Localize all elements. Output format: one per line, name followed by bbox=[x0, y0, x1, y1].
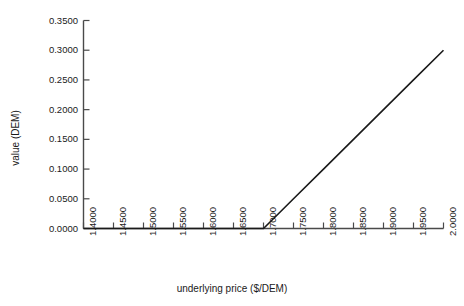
data-series-lines bbox=[84, 50, 444, 228]
x-axis-tick-label: 1.9000 bbox=[388, 206, 398, 235]
x-axis-tick-label: 1.7500 bbox=[298, 206, 308, 235]
axis-lines bbox=[84, 21, 444, 229]
y-axis-title: value (DEM) bbox=[10, 68, 21, 208]
y-axis-ticks bbox=[84, 21, 90, 229]
x-axis-tick-label: 2.0000 bbox=[448, 206, 458, 235]
y-axis-tick-label: 0.1500 bbox=[18, 135, 78, 145]
y-axis-tick-label: 0.0500 bbox=[18, 194, 78, 204]
x-axis-tick-label: 1.4000 bbox=[88, 206, 98, 235]
y-axis-tick-label: 0.3500 bbox=[18, 16, 78, 26]
x-axis-title: underlying price ($/DEM) bbox=[0, 283, 464, 294]
x-axis-tick-label: 1.6500 bbox=[238, 206, 248, 235]
x-axis-tick-label: 1.5500 bbox=[178, 206, 188, 235]
y-axis-tick-label: 0.0000 bbox=[18, 224, 78, 234]
x-axis-tick-label: 1.5000 bbox=[148, 206, 158, 235]
x-axis-tick-label: 1.4500 bbox=[118, 206, 128, 235]
x-axis-tick-label: 1.7000 bbox=[268, 206, 278, 235]
x-axis-tick-label: 1.8500 bbox=[358, 206, 368, 235]
chart-container: 0.00000.05000.10000.15000.20000.25000.30… bbox=[0, 0, 464, 306]
x-axis-tick-label: 1.9500 bbox=[418, 206, 428, 235]
series-line-0 bbox=[84, 50, 444, 228]
y-axis-tick-label: 0.2000 bbox=[18, 105, 78, 115]
y-axis-tick-label: 0.2500 bbox=[18, 75, 78, 85]
x-axis-tick-label: 1.6000 bbox=[208, 206, 218, 235]
y-axis-tick-label: 0.3000 bbox=[18, 45, 78, 55]
x-axis-tick-label: 1.8000 bbox=[328, 206, 338, 235]
y-axis-tick-label: 0.1000 bbox=[18, 164, 78, 174]
